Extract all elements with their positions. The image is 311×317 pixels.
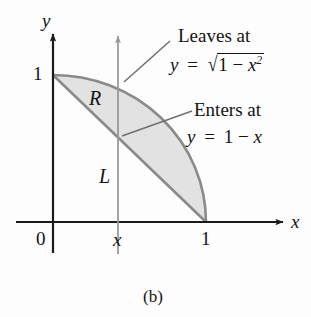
callout-leaves-title: Leaves at [178, 26, 250, 45]
leaves-radicand-pre: 1 − [218, 54, 248, 75]
enters-eq-equals: = [204, 126, 215, 147]
x-tick-1: 1 [201, 229, 211, 248]
leaves-radicand-exponent: 2 [256, 54, 262, 67]
y-axis-label: y [42, 11, 50, 30]
leader-line-leaves [124, 41, 170, 82]
callout-enters-equation: y = 1 − x [187, 127, 262, 146]
origin-label: 0 [36, 229, 46, 248]
leaves-eq-lhs: y [170, 54, 178, 75]
callout-leaves-equation: y = √ 1 − x2 [170, 53, 264, 75]
enters-eq-lhs: y [187, 126, 195, 147]
radical-icon: √ [208, 54, 217, 75]
leaves-eq-equals: = [187, 54, 198, 75]
y-tick-1: 1 [33, 64, 43, 83]
leaves-eq-radicand: 1 − x2 [217, 53, 264, 74]
x-tick-x: x [113, 230, 121, 249]
enters-rhs-text: 1 − x [224, 126, 262, 147]
x-axis-label: x [291, 212, 299, 231]
figure-container: y x 1 0 x 1 R L Leaves at y = √ 1 − x2 E… [0, 0, 311, 317]
callout-enters-title: Enters at [194, 100, 261, 119]
region-label-R: R [89, 88, 101, 108]
vertical-line-label-L: L [99, 166, 110, 186]
figure-caption: (b) [143, 288, 163, 305]
diagram-canvas [0, 0, 311, 317]
enters-eq-rhs: 1 − x [224, 126, 262, 147]
